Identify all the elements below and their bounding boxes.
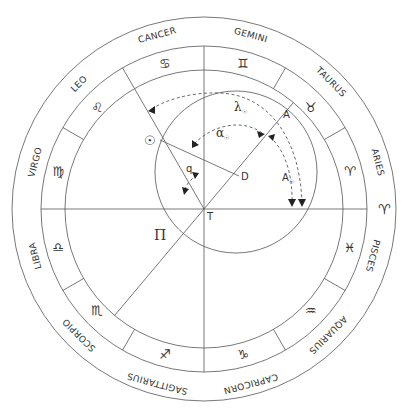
zodiac-diagram: A D T ☉ Π λ ☉ α ☉ A ☉ q ♈ ♉ ♊ ♋ ♌ ♍ ♎ ♏ … xyxy=(0,0,405,415)
alpha-label: α ☉ xyxy=(216,126,229,141)
celestial-circle xyxy=(155,91,317,253)
pole-symbol: Π xyxy=(154,227,166,243)
name-virgo: VIRGO xyxy=(26,146,44,178)
alpha-arrow-head xyxy=(192,140,199,148)
sun-line xyxy=(135,89,205,209)
glyph-sagittarius: ♐ xyxy=(159,347,171,362)
glyph-libra: ♎ xyxy=(52,240,64,255)
name-gemini: GEMINI xyxy=(233,26,269,45)
sun-d-line xyxy=(160,140,239,176)
name-libra: LIBRA xyxy=(27,241,44,271)
sun-symbol: ☉ xyxy=(144,133,156,148)
label-d: D xyxy=(241,171,249,182)
q-arrow-top xyxy=(192,172,199,179)
q-arrow-bottom xyxy=(182,187,189,195)
name-sagittarius: SAGITTARIUS xyxy=(126,371,189,397)
svg-text:A: A xyxy=(282,172,289,183)
label-a: A xyxy=(283,109,290,120)
glyph-capricorn: ♑ xyxy=(237,347,249,362)
lambda-label: λ ☉ xyxy=(234,100,247,115)
a-angle-label: A ☉ xyxy=(282,172,294,185)
svg-text:☉: ☉ xyxy=(224,134,229,141)
svg-text:α: α xyxy=(216,126,224,140)
lambda-arc xyxy=(150,93,302,203)
name-capricorn: CAPRICORN xyxy=(223,372,280,396)
svg-text:λ: λ xyxy=(234,100,242,114)
q-label: q xyxy=(186,163,192,174)
glyph-pisces: ♓ xyxy=(344,240,356,255)
glyph-aries: ♈ xyxy=(344,164,356,179)
label-t: T xyxy=(206,211,214,222)
glyph-virgo: ♍ xyxy=(52,164,64,179)
glyph-aquarius: ♒ xyxy=(305,303,317,318)
glyph-scorpio: ♏ xyxy=(91,303,103,318)
a-arc xyxy=(270,137,292,204)
vernal-point-glyph: ♈ xyxy=(378,201,391,217)
name-cancer: CANCER xyxy=(137,25,177,45)
glyph-cancer: ♋ xyxy=(159,56,171,71)
name-aries: ARIES xyxy=(369,147,386,177)
glyph-gemini: ♊ xyxy=(237,56,249,71)
glyph-leo: ♌ xyxy=(91,100,103,115)
glyph-taurus: ♉ xyxy=(305,100,317,115)
name-leo: LEO xyxy=(69,74,89,94)
a-arrow-start xyxy=(268,134,275,141)
name-pisces: PISCES xyxy=(364,238,382,273)
svg-text:☉: ☉ xyxy=(242,108,247,115)
a-arrow-end xyxy=(288,199,296,207)
name-scorpio: SCORPIO xyxy=(60,317,97,354)
svg-text:☉: ☉ xyxy=(289,178,294,185)
name-aquarius: AQUARIUS xyxy=(307,314,349,356)
lambda-arrow-head xyxy=(148,106,155,114)
lambda-arrow-tail xyxy=(298,199,306,207)
